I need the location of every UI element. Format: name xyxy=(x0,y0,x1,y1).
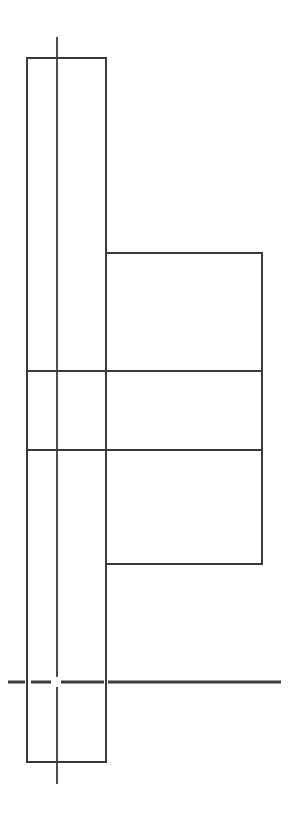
shaft-rect xyxy=(27,58,106,762)
drawing-canvas xyxy=(0,0,296,826)
flange-rect xyxy=(106,253,262,564)
technical-drawing xyxy=(0,0,296,826)
